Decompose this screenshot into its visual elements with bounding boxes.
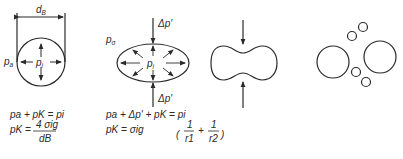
inner-arrow-icon <box>133 50 143 58</box>
fragment-large <box>317 46 349 78</box>
outer-pressure-label: pa <box>3 56 14 68</box>
necking-droplet <box>211 46 277 80</box>
top-force-label: Δp' <box>157 18 173 29</box>
inner-arrow-icon <box>133 68 143 76</box>
panel-necking <box>211 20 277 108</box>
plus-sign: + <box>198 125 204 136</box>
frac1-numerator: 1 <box>187 119 193 130</box>
fragment-small <box>362 78 371 87</box>
fragment-small <box>348 32 357 41</box>
inner-arrow-icon <box>163 68 173 76</box>
fragment-small <box>359 23 368 32</box>
fraction-numerator: 4 σig <box>36 119 59 130</box>
paren-open: ( <box>176 129 181 140</box>
fragment-small <box>352 68 361 77</box>
frac1-denominator: r1 <box>185 133 194 144</box>
equation-capillary-pressure-lhs: pK = <box>9 124 31 135</box>
inner-pressure-label: pi <box>35 57 44 69</box>
inner-pressure-label: pi <box>146 58 155 70</box>
inner-arrow-icon <box>163 50 173 58</box>
diameter-label: dB <box>36 4 47 16</box>
frac2-denominator: r2 <box>209 133 218 144</box>
equation-capillary-pressure-lhs: pK = σig <box>105 124 144 135</box>
bottom-force-label: Δp' <box>157 93 173 104</box>
panel-sphere <box>17 13 65 86</box>
equation-pressure-balance-deformed: pa + Δp' + pK = pi <box>105 109 186 120</box>
paren-close: ) <box>220 129 224 140</box>
fragment-large <box>364 41 396 73</box>
frac2-numerator: 1 <box>211 119 217 130</box>
outer-pressure-label: pσ <box>105 34 117 46</box>
droplet-deformation-diagram: dB pa pi Δp' Δp' pσ pi pa + pK = pi pK =… <box>0 0 403 159</box>
panel-breakup <box>317 23 396 87</box>
fraction-denominator: dB <box>39 133 52 144</box>
